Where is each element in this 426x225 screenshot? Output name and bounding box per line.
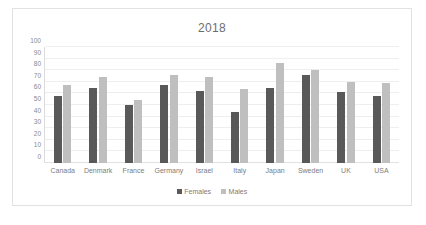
bar-group bbox=[328, 47, 363, 163]
bar-japan-males[interactable] bbox=[276, 63, 284, 163]
chart-title: 2018 bbox=[13, 21, 411, 35]
bar-canada-females[interactable] bbox=[54, 96, 62, 163]
bar-italy-males[interactable] bbox=[240, 89, 248, 163]
legend-item-females[interactable]: Females bbox=[177, 188, 211, 195]
x-axis-label-japan: Japan bbox=[257, 167, 292, 174]
bar-group bbox=[257, 47, 292, 163]
chart-container: 2018 1009080706050403020100 CanadaDenmar… bbox=[12, 8, 412, 206]
legend-item-males[interactable]: Males bbox=[221, 188, 247, 195]
x-axis-label-canada: Canada bbox=[45, 167, 80, 174]
bar-canada-males[interactable] bbox=[63, 85, 71, 163]
legend-label: Females bbox=[184, 188, 211, 195]
x-axis-label-israel: Israel bbox=[187, 167, 222, 174]
x-axis-label-denmark: Denmark bbox=[80, 167, 115, 174]
y-axis-tick-label: 100 bbox=[30, 37, 41, 44]
bar-usa-males[interactable] bbox=[382, 83, 390, 163]
bar-group bbox=[116, 47, 151, 163]
bar-sweden-females[interactable] bbox=[302, 75, 310, 163]
y-axis-tick-label: 30 bbox=[34, 118, 41, 125]
legend-label: Males bbox=[229, 188, 248, 195]
bar-denmark-males[interactable] bbox=[99, 77, 107, 163]
bars-layer bbox=[45, 47, 399, 163]
chart-legend: FemalesMales bbox=[13, 188, 411, 195]
x-axis-category-labels: CanadaDenmarkFranceGermanyIsraelItalyJap… bbox=[45, 167, 399, 174]
x-axis-label-usa: USA bbox=[364, 167, 399, 174]
bar-israel-females[interactable] bbox=[196, 91, 204, 163]
y-axis-tick-label: 10 bbox=[34, 141, 41, 148]
bar-italy-females[interactable] bbox=[231, 112, 239, 163]
bar-group bbox=[187, 47, 222, 163]
x-axis-label-germany: Germany bbox=[151, 167, 186, 174]
bar-uk-males[interactable] bbox=[347, 82, 355, 163]
bar-sweden-males[interactable] bbox=[311, 70, 319, 163]
bar-group bbox=[45, 47, 80, 163]
plot-area: 1009080706050403020100 bbox=[45, 47, 399, 163]
bar-france-males[interactable] bbox=[134, 100, 142, 163]
bar-group bbox=[293, 47, 328, 163]
bar-uk-females[interactable] bbox=[337, 92, 345, 163]
bar-france-females[interactable] bbox=[125, 105, 133, 163]
bar-usa-females[interactable] bbox=[373, 96, 381, 163]
y-axis-tick-label: 0 bbox=[37, 153, 41, 160]
y-axis-tick-label: 70 bbox=[34, 71, 41, 78]
x-axis-label-france: France bbox=[116, 167, 151, 174]
legend-swatch-icon bbox=[221, 189, 226, 194]
bar-group bbox=[151, 47, 186, 163]
bar-group bbox=[364, 47, 399, 163]
y-axis-tick-label: 90 bbox=[34, 48, 41, 55]
y-axis-tick-label: 40 bbox=[34, 106, 41, 113]
bar-group bbox=[222, 47, 257, 163]
y-axis-tick-label: 80 bbox=[34, 60, 41, 67]
bar-japan-females[interactable] bbox=[266, 88, 274, 163]
y-axis-tick-label: 20 bbox=[34, 129, 41, 136]
bar-germany-males[interactable] bbox=[170, 75, 178, 163]
x-axis-label-uk: UK bbox=[328, 167, 363, 174]
bar-germany-females[interactable] bbox=[160, 85, 168, 163]
x-axis-label-sweden: Sweden bbox=[293, 167, 328, 174]
legend-swatch-icon bbox=[177, 189, 182, 194]
x-axis-label-italy: Italy bbox=[222, 167, 257, 174]
bar-group bbox=[80, 47, 115, 163]
y-axis-tick-label: 60 bbox=[34, 83, 41, 90]
y-axis-tick-label: 50 bbox=[34, 95, 41, 102]
bar-denmark-females[interactable] bbox=[89, 88, 97, 163]
bar-israel-males[interactable] bbox=[205, 77, 213, 163]
